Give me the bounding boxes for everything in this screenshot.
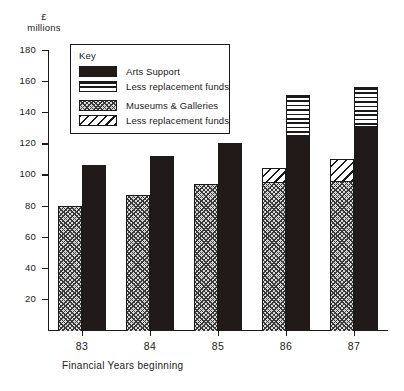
y-tick: [42, 143, 48, 144]
bar-arts-support-86: [286, 95, 310, 330]
legend-entry-0: Arts Support: [79, 65, 180, 77]
y-tick: [42, 50, 48, 51]
segment-less-replacement-funds-arts-86: [287, 96, 309, 135]
y-tick: [42, 237, 48, 238]
segment-less-replacement-funds-museums-87: [331, 160, 353, 182]
bar-arts-support-84: [150, 156, 174, 330]
segment-less-replacement-funds-arts-87: [355, 88, 377, 125]
y-tick: [42, 299, 48, 300]
bar-museums-galleries-87: [330, 159, 354, 330]
y-tick: [42, 112, 48, 113]
y-tick-label: 100: [10, 168, 36, 179]
legend-entry-3: Less replacement funds: [79, 114, 229, 126]
legend-swatch-diagonal-stripe: [79, 115, 117, 126]
y-tick-label: 60: [10, 231, 36, 242]
y-tick: [42, 81, 48, 82]
segment-arts-support-83: [83, 166, 105, 331]
x-axis-label: Financial Years beginning: [62, 360, 183, 371]
y-tick-label: 80: [10, 200, 36, 211]
bar-arts-support-85: [218, 143, 242, 330]
legend-entry-2: Museums & Galleries: [79, 99, 218, 111]
legend-label: Less replacement funds: [126, 115, 229, 126]
segment-less-replacement-funds-museums-86: [263, 169, 285, 183]
legend-label: Museums & Galleries: [126, 100, 218, 111]
legend-label: Arts Support: [126, 66, 180, 77]
legend-title: Key: [79, 50, 96, 61]
segment-museums-galleries-83: [59, 207, 81, 331]
segment-museums-galleries-84: [127, 196, 149, 331]
y-axis-unit-scale: millions: [16, 22, 72, 33]
x-tick-label: 84: [135, 340, 165, 352]
y-tick: [42, 268, 48, 269]
segment-arts-support-85: [219, 144, 241, 331]
segment-arts-support-86: [287, 135, 309, 331]
legend-swatch-horizontal-stripe: [79, 81, 117, 92]
bar-museums-galleries-85: [194, 184, 218, 330]
segment-museums-galleries-87: [331, 182, 353, 331]
y-tick-label: 20: [10, 293, 36, 304]
y-tick: [42, 174, 48, 175]
segment-museums-galleries-86: [263, 183, 285, 331]
y-axis-line: [48, 50, 49, 330]
x-tick-label: 87: [339, 340, 369, 352]
legend-label: Less replacement funds: [126, 81, 229, 92]
legend-entry-1: Less replacement funds: [79, 80, 229, 92]
legend-swatch-cross-hatch: [79, 100, 117, 111]
x-tick-label: 86: [271, 340, 301, 352]
y-tick-label: 120: [10, 137, 36, 148]
y-tick-label: 40: [10, 262, 36, 273]
y-tick-label: 140: [10, 106, 36, 117]
x-tick-label: 83: [67, 340, 97, 352]
segment-arts-support-84: [151, 157, 173, 331]
y-axis-unit-currency: £: [24, 11, 64, 22]
bar-arts-support-83: [82, 165, 106, 330]
bar-chart: £ millions 20406080100120140160180 83848…: [0, 0, 404, 391]
legend-swatch-solid-black: [79, 66, 117, 77]
segment-museums-galleries-85: [195, 185, 217, 331]
y-tick-label: 160: [10, 75, 36, 86]
x-tick-label: 85: [203, 340, 233, 352]
legend: Key Arts SupportLess replacement fundsMu…: [70, 44, 230, 134]
bar-museums-galleries-83: [58, 206, 82, 330]
segment-arts-support-87: [355, 126, 377, 331]
bar-arts-support-87: [354, 87, 378, 330]
y-tick: [42, 206, 48, 207]
bar-museums-galleries-86: [262, 168, 286, 330]
y-tick-label: 180: [10, 44, 36, 55]
bar-museums-galleries-84: [126, 195, 150, 330]
